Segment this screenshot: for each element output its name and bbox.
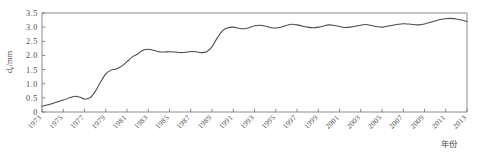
x-tick-label: 2007 <box>387 113 405 131</box>
x-tick-label: 1989 <box>196 113 214 131</box>
line-chart: 3.53.02.52.01.51.00.50 19731975197719791… <box>0 0 477 158</box>
y-tick-label: 3.0 <box>26 23 38 32</box>
svg-text:de/mm: de/mm <box>5 50 15 73</box>
y-tick-label: 2.5 <box>26 37 38 46</box>
x-tick-label: 1999 <box>302 113 320 131</box>
x-tick-label: 1985 <box>153 113 171 131</box>
x-tick-label: 1979 <box>89 113 107 131</box>
y-axis-title: de/mm <box>5 50 15 73</box>
x-axis-title: 年份 <box>441 139 458 149</box>
y-axis-title-unit: /mm <box>5 50 14 66</box>
x-tick-label: 2009 <box>408 113 426 131</box>
x-tick-label: 1975 <box>47 113 65 131</box>
x-tick-label: 2003 <box>344 113 362 131</box>
x-tick-label: 1977 <box>68 113 86 131</box>
x-tick-label: 1997 <box>281 113 299 131</box>
y-tick-label: 1.0 <box>26 80 38 89</box>
x-tick-label: 1993 <box>238 113 256 131</box>
data-series-line <box>42 18 467 106</box>
x-tick-label: 2001 <box>323 113 341 131</box>
x-tick-label: 2011 <box>430 113 447 130</box>
plot-frame <box>42 13 467 112</box>
x-tick-label: 1981 <box>111 113 129 131</box>
x-tick-label: 1987 <box>174 113 192 131</box>
x-tick-label: 1973 <box>26 113 44 131</box>
x-tick-label: 2013 <box>451 113 469 131</box>
x-tick-label: 1991 <box>217 113 235 131</box>
x-tick-label: 1995 <box>259 113 277 131</box>
y-tick-label: 3.5 <box>26 9 38 18</box>
x-tick-label: 1983 <box>132 113 150 131</box>
chart-figure: 3.53.02.52.01.51.00.50 19731975197719791… <box>0 0 477 158</box>
x-tick-label: 2005 <box>366 113 384 131</box>
y-tick-label: 2.0 <box>26 51 38 60</box>
y-tick-label: 1.5 <box>26 66 38 75</box>
y-tick-label: 0.5 <box>26 94 38 103</box>
